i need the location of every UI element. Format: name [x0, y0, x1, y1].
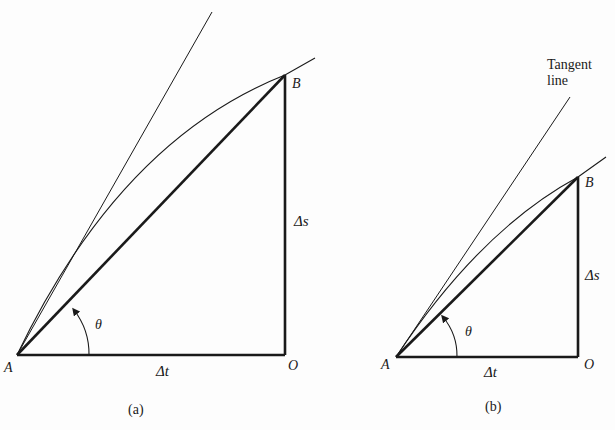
chord-ab-a: [17, 75, 285, 355]
label-tangent-line-2: line: [547, 73, 568, 88]
label-delta-t: Δt: [155, 363, 170, 379]
figure-b: Tangent line A O B Δs Δt θ (b): [380, 57, 606, 415]
label-delta-s-b: Δs: [584, 267, 600, 283]
diagram-svg: A O B Δs Δt θ (a) Tangent line A O B Δs …: [0, 0, 615, 430]
curve-a: [17, 58, 315, 355]
figure-a: A O B Δs Δt θ (a): [3, 12, 315, 418]
label-b-point: B: [292, 76, 301, 91]
label-o-point-b: O: [584, 357, 594, 372]
theta-arc-a: [74, 310, 89, 355]
label-theta: θ: [95, 317, 102, 332]
label-tangent-line-1: Tangent: [547, 57, 592, 72]
theta-arc-b: [443, 317, 457, 357]
caption-b: (b): [485, 399, 502, 415]
label-theta-b: θ: [465, 324, 472, 339]
label-o-point: O: [288, 358, 298, 373]
label-a-point: A: [3, 360, 13, 375]
label-b-point-b: B: [585, 175, 594, 190]
label-delta-s: Δs: [293, 213, 309, 229]
label-delta-t-b: Δt: [483, 364, 498, 380]
tangent-line-b: [396, 97, 570, 357]
label-a-point-b: A: [380, 357, 390, 372]
caption-a: (a): [128, 402, 144, 418]
figure-canvas: A O B Δs Δt θ (a) Tangent line A O B Δs …: [0, 0, 615, 430]
chord-ab-b: [396, 177, 578, 357]
